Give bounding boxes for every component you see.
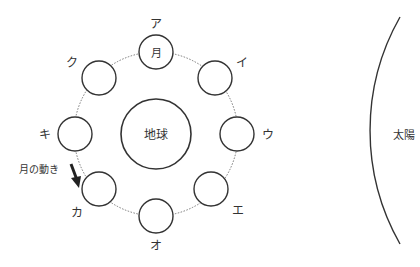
position-label-i: イ xyxy=(236,56,248,70)
earth-label: 地球 xyxy=(144,128,168,142)
position-label-ki: キ xyxy=(39,128,51,142)
position-label-o: オ xyxy=(150,239,162,253)
moon-label: 月 xyxy=(151,47,162,60)
moon-position-ku: ク xyxy=(66,56,116,95)
position-label-a: ア xyxy=(150,17,162,31)
sun-label: 太陽 xyxy=(393,129,415,142)
position-label-e: エ xyxy=(232,204,244,218)
moon-position-i: イ xyxy=(198,56,248,95)
moon-motion-arrow xyxy=(71,164,81,188)
moon-position-a: 月 ア xyxy=(139,17,173,69)
position-label-ku: ク xyxy=(66,56,78,70)
moon-position-ki: キ xyxy=(39,117,92,151)
moon-position-e: エ xyxy=(194,172,244,218)
moon-phase-diagram: 地球 月 ア イ ウ エ オ カ キ ク 月の動き 太陽 xyxy=(0,0,420,267)
moon-position-u: ウ xyxy=(220,117,274,151)
moon-position-o: オ xyxy=(139,199,173,253)
position-label-ka: カ xyxy=(71,206,83,220)
motion-label: 月の動き xyxy=(19,163,59,175)
position-label-u: ウ xyxy=(262,128,274,142)
